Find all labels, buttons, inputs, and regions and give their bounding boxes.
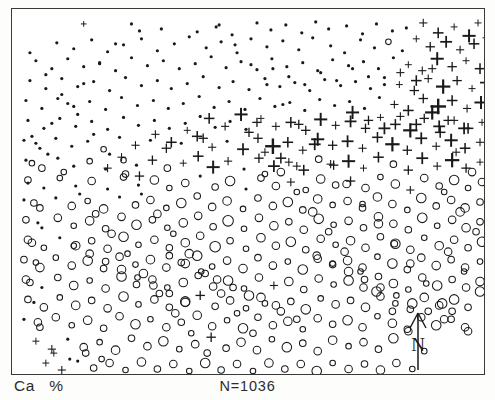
data-point-circle: [359, 323, 367, 331]
data-point-dot: [24, 159, 27, 162]
data-point-circle: [116, 313, 124, 321]
data-point-circle: [329, 321, 336, 328]
data-point-plus: [346, 106, 359, 119]
data-point-dot: [118, 195, 121, 198]
data-point-circle: [213, 276, 221, 284]
data-point-circle: [212, 303, 219, 310]
data-point-dot: [66, 338, 69, 341]
data-point-circle: [210, 224, 217, 231]
data-point-dot: [188, 35, 191, 38]
data-point-plus: [328, 141, 337, 150]
data-point-circle: [87, 278, 93, 284]
data-point-circle: [194, 193, 201, 200]
data-point-circle: [465, 185, 471, 191]
data-point-dot: [244, 187, 247, 190]
data-point-circle: [131, 319, 141, 329]
data-point-plus: [432, 142, 440, 150]
data-point-circle: [83, 316, 92, 325]
data-point-circle: [116, 253, 124, 261]
data-point-plus: [396, 81, 403, 88]
data-point-circle: [345, 217, 353, 225]
data-point-plus: [475, 19, 482, 26]
data-point-dot: [114, 42, 117, 45]
data-point-circle: [347, 297, 354, 304]
data-point-circle: [234, 311, 240, 317]
data-point-circle: [88, 177, 96, 185]
data-point-circle: [473, 228, 480, 235]
data-point-plus: [198, 134, 207, 143]
data-point-dot: [284, 23, 287, 26]
data-point-circle: [434, 223, 440, 229]
data-point-circle: [54, 214, 62, 222]
data-point-plus: [475, 63, 484, 74]
data-point-plus: [463, 57, 470, 64]
data-point-dot: [72, 47, 75, 50]
data-point-circle: [241, 226, 247, 232]
data-point-dot: [44, 87, 47, 90]
data-point-circle: [332, 301, 340, 309]
data-point-circle: [177, 198, 187, 208]
data-point-dot: [224, 66, 227, 69]
data-point-circle: [133, 262, 139, 268]
data-point-circle: [405, 207, 411, 213]
data-point-plus: [192, 131, 203, 142]
data-point-circle: [117, 272, 127, 282]
data-point-circle: [344, 267, 353, 276]
data-point-circle: [123, 367, 129, 373]
data-point-circle: [377, 233, 384, 240]
data-point-circle: [344, 197, 352, 205]
data-point-dot: [373, 46, 376, 49]
data-point-plus: [358, 144, 366, 152]
data-point-circle: [390, 220, 398, 228]
data-point-dot: [178, 67, 181, 70]
data-point-dot: [36, 221, 39, 224]
data-point-dot: [392, 56, 395, 59]
data-point-circle: [23, 217, 30, 224]
data-point-circle: [346, 236, 355, 245]
data-point-dot: [54, 196, 57, 199]
data-point-dot: [218, 86, 221, 89]
data-point-circle: [181, 259, 190, 268]
data-point-plus: [461, 163, 470, 172]
data-point-dot: [55, 41, 58, 44]
data-point-dot: [300, 31, 303, 34]
data-point-circle: [210, 241, 221, 252]
data-point-plus: [436, 79, 450, 93]
data-point-circle: [360, 338, 368, 346]
data-point-circle: [192, 251, 202, 261]
data-point-plus: [411, 75, 422, 86]
data-point-circle: [432, 261, 441, 270]
data-point-circle: [476, 277, 484, 286]
data-point-dot: [22, 198, 25, 201]
data-point-circle: [208, 203, 216, 211]
data-point-dot: [108, 89, 111, 92]
data-point-circle: [373, 193, 382, 202]
data-point-dot: [135, 164, 138, 167]
data-point-dot: [70, 145, 73, 148]
data-point-dot: [106, 128, 109, 131]
data-point-plus: [286, 117, 297, 128]
data-point-circle: [104, 245, 112, 253]
data-point-circle: [227, 237, 234, 244]
data-point-dot: [220, 40, 223, 43]
data-point-circle: [102, 226, 109, 233]
data-point-plus: [162, 144, 171, 153]
data-point-circle: [417, 213, 427, 223]
data-point-dot: [301, 61, 304, 64]
data-point-plus: [360, 165, 367, 172]
data-point-dot: [173, 42, 176, 45]
data-point-dot: [303, 83, 306, 86]
data-point-circle: [333, 242, 339, 248]
data-point-circle: [312, 366, 322, 374]
data-point-circle: [36, 263, 45, 272]
data-point-plus: [294, 120, 303, 129]
data-point-dot: [130, 22, 133, 25]
data-point-plus: [403, 105, 414, 116]
north-label: N: [411, 334, 425, 355]
data-point-dot: [345, 24, 348, 27]
sample-count-label: N=1036: [0, 378, 495, 394]
data-point-circle: [224, 318, 230, 324]
data-point-plus: [435, 127, 446, 138]
data-point-circle: [299, 340, 306, 347]
data-point-circle: [102, 258, 109, 265]
